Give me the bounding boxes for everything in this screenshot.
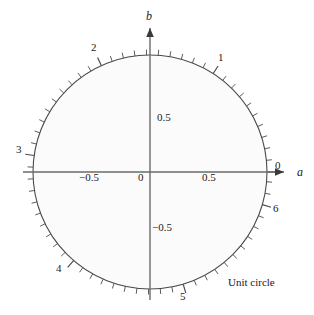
- radian-label-4: 4: [56, 263, 62, 274]
- arc-minor-tick: [254, 226, 259, 229]
- arc-minor-tick: [45, 109, 50, 112]
- arc-minor-tick: [224, 262, 227, 266]
- arc-minor-tick: [60, 89, 64, 93]
- arc-minor-tick: [223, 76, 226, 80]
- arc-minor-tick: [29, 190, 34, 191]
- arc-major-tick: [262, 205, 271, 208]
- arc-minor-tick: [181, 54, 182, 59]
- arc-minor-tick: [136, 288, 137, 293]
- x-axis-label: a: [297, 166, 303, 178]
- arc-minor-tick: [247, 103, 252, 106]
- y-axis-label: b: [146, 10, 152, 22]
- unit-circle-figure: b a −0.5 0 0.5 0.5 −0.5 0 1 2 3 4 5 6 Un…: [0, 0, 314, 315]
- arc-minor-tick: [35, 131, 40, 133]
- arc-major-tick: [68, 261, 74, 268]
- arc-minor-tick: [46, 234, 51, 237]
- arc-minor-tick: [239, 93, 243, 97]
- arc-minor-tick: [80, 268, 83, 273]
- arc-minor-tick: [90, 274, 93, 279]
- arc-minor-tick: [53, 244, 57, 247]
- y-tick-label-half: 0.5: [157, 112, 171, 123]
- radian-label-1: 1: [218, 52, 224, 63]
- radian-label-3: 3: [16, 144, 22, 155]
- arc-minor-tick: [258, 124, 263, 126]
- arc-minor-tick: [241, 246, 245, 249]
- arc-minor-tick: [32, 202, 37, 203]
- arc-minor-tick: [172, 287, 173, 292]
- arc-minor-tick: [203, 63, 206, 68]
- arc-minor-tick: [31, 143, 36, 144]
- arc-minor-tick: [88, 66, 91, 71]
- arc-major-tick: [98, 57, 102, 65]
- arc-minor-tick: [52, 99, 56, 102]
- arc-minor-tick: [134, 51, 135, 56]
- arc-minor-tick: [110, 56, 112, 61]
- arc-minor-tick: [78, 73, 81, 77]
- arc-minor-tick: [124, 286, 125, 291]
- arc-minor-tick: [232, 84, 236, 88]
- arc-minor-tick: [253, 113, 258, 116]
- arc-minor-tick: [39, 120, 44, 122]
- x-tick-label-zero: 0: [138, 172, 144, 183]
- arc-minor-tick: [215, 269, 218, 274]
- arc-minor-tick: [112, 283, 114, 288]
- arc-major-tick: [25, 154, 34, 155]
- arc-minor-tick: [68, 81, 72, 85]
- arc-minor-tick: [122, 53, 123, 58]
- arc-minor-tick: [35, 213, 40, 215]
- arc-minor-tick: [248, 236, 253, 239]
- arc-major-tick: [213, 66, 218, 74]
- arc-minor-tick: [192, 58, 194, 63]
- x-tick-label-neg-half: −0.5: [79, 172, 99, 183]
- y-axis-arrowhead: [146, 28, 154, 37]
- radian-label-2: 2: [91, 42, 97, 53]
- arc-minor-tick: [265, 148, 270, 149]
- figure-caption: Unit circle: [228, 277, 275, 288]
- arc-minor-tick: [40, 224, 45, 226]
- arc-minor-tick: [61, 252, 65, 256]
- arc-minor-tick: [233, 255, 237, 259]
- arc-minor-tick: [205, 275, 208, 280]
- arc-minor-tick: [194, 280, 196, 285]
- radian-label-6: 6: [273, 203, 279, 214]
- radian-label-0: 0: [275, 160, 281, 171]
- x-tick-label-half: 0.5: [202, 172, 216, 183]
- unit-circle-diagram: [0, 0, 314, 315]
- radian-label-5: 5: [180, 291, 186, 302]
- arc-minor-tick: [170, 51, 171, 56]
- arc-minor-tick: [262, 136, 267, 138]
- arc-minor-tick: [101, 279, 103, 284]
- arc-minor-tick: [266, 160, 271, 161]
- y-tick-label-neg-half: −0.5: [152, 222, 172, 233]
- arc-minor-tick: [259, 216, 264, 218]
- arc-minor-tick: [265, 193, 270, 194]
